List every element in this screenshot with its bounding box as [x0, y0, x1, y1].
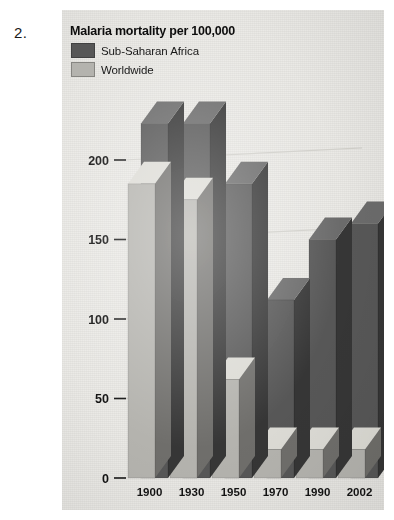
bar-chart-plot: 050100150200190019301950197019902002 — [62, 10, 384, 510]
svg-text:0: 0 — [102, 472, 109, 486]
legend-label-sub-saharan-africa: Sub-Saharan Africa — [101, 45, 199, 57]
chart-figure: Malaria mortality per 100,000 Sub-Sahara… — [62, 10, 384, 510]
legend-swatch-sub-saharan-africa — [71, 43, 95, 58]
svg-text:1930: 1930 — [179, 486, 205, 498]
svg-text:1950: 1950 — [221, 486, 247, 498]
svg-text:1900: 1900 — [137, 486, 163, 498]
svg-text:150: 150 — [88, 233, 109, 247]
legend-swatch-worldwide — [71, 62, 95, 77]
svg-text:50: 50 — [95, 392, 109, 406]
chart-svg: 050100150200190019301950197019902002 — [62, 10, 384, 510]
svg-text:1970: 1970 — [263, 486, 289, 498]
svg-text:1990: 1990 — [305, 486, 331, 498]
chart-title: Malaria mortality per 100,000 — [70, 24, 235, 38]
legend-label-worldwide: Worldwide — [101, 64, 154, 76]
legend-item-sub-saharan-africa: Sub-Saharan Africa — [71, 43, 199, 58]
legend-item-worldwide: Worldwide — [71, 62, 154, 77]
svg-text:200: 200 — [88, 154, 109, 168]
svg-text:2002: 2002 — [347, 486, 373, 498]
item-number: 2. — [14, 24, 28, 41]
svg-text:100: 100 — [88, 313, 109, 327]
